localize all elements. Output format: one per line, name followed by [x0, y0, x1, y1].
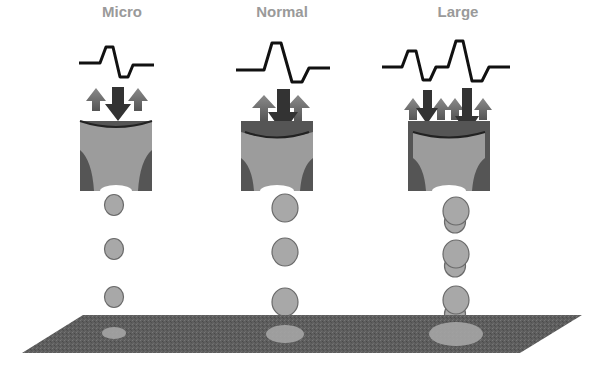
nozzle-normal [241, 121, 313, 197]
droplet [443, 197, 469, 225]
waveform-large [382, 41, 510, 81]
droplet [105, 287, 124, 308]
nozzle-large [408, 121, 490, 197]
pressure-arrows-micro [86, 87, 148, 121]
droplet [443, 286, 469, 314]
droplets-micro [105, 195, 124, 308]
droplet [443, 240, 469, 268]
droplet [272, 194, 298, 222]
nozzle-micro [80, 121, 152, 197]
waveform-normal [236, 43, 330, 82]
dot-micro [102, 327, 126, 339]
droplet [105, 239, 124, 260]
substrate [22, 315, 582, 353]
droplets-normal [272, 194, 298, 322]
dot-normal [266, 325, 304, 343]
waveform-micro [79, 47, 154, 77]
droplet [105, 195, 124, 216]
dot-large [429, 322, 483, 346]
droplet [272, 238, 298, 266]
droplets-large [443, 197, 469, 325]
droplet [272, 288, 298, 316]
